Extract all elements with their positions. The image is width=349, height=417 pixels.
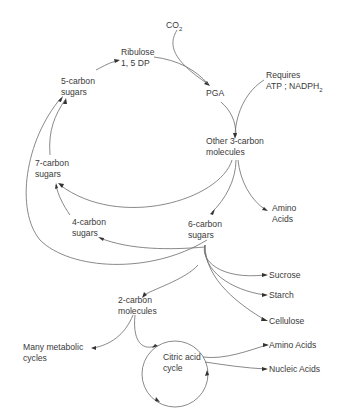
ribulose-label: Ribulose1, 5 DP [121,47,154,69]
four-carbon-sugars-label: 4-carbonsugars [72,217,106,239]
amino-acids-label-2: Amino Acids [269,340,316,351]
nucleic-acids-label: Nucleic Acids [269,364,320,375]
amino-acids-label-1: AminoAcids [272,203,296,225]
co2-label: CO2 [166,20,182,35]
seven-carbon-sugars-label: 7-carbonsugars [35,158,69,180]
many-metabolic-cycles-label: Many metaboliccycles [23,342,83,364]
requires-label: RequiresATP ; NADPH2 [266,70,323,96]
six-carbon-sugars-label: 6-carbonsugars [188,219,222,241]
citric-acid-cycle-label: Citric acidcycle [163,352,201,374]
two-carbon-molecules-label: 2-carbonmolecules [118,295,157,317]
pga-label: PGA [206,88,224,99]
diagram-canvas: CO2 Ribulose1, 5 DP PGA RequiresATP ; NA… [0,0,349,417]
five-carbon-sugars-label: 5-carbonsugars [61,76,95,98]
starch-label: Starch [269,290,294,301]
other-three-carbon-label: Other 3-carbonmolecules [206,136,264,158]
cellulose-label: Cellulose [269,316,304,327]
sucrose-label: Sucrose [269,270,301,281]
